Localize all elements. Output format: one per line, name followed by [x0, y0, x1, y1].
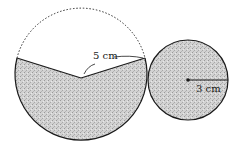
- circles-figure: [0, 0, 241, 150]
- diagram: 5 cm 3 cm: [0, 0, 241, 150]
- radius-leader-line: [84, 64, 95, 74]
- small-radius-label: 3 cm: [196, 84, 221, 94]
- radius-leader-line-right: [114, 56, 143, 58]
- large-circle-shaded-sector: [15, 58, 147, 140]
- large-radius-label: 5 cm: [93, 51, 118, 61]
- large-circle-dashed-arc: [17, 8, 145, 58]
